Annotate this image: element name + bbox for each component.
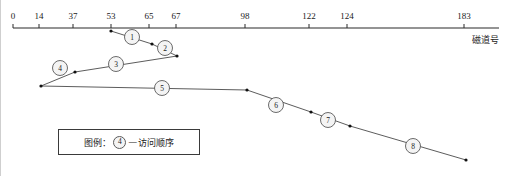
- axis-caption-label: 磁道号: [472, 34, 499, 45]
- access-order-circle: 8: [406, 139, 421, 154]
- access-order-circle: 2: [158, 41, 173, 56]
- axis-tick-label: 98: [241, 11, 251, 21]
- seek-point-dot: [309, 110, 312, 113]
- order-circle-label: 8: [411, 142, 415, 151]
- axis-tick-label: 0: [11, 11, 16, 21]
- axis-tick-label: 37: [69, 11, 79, 21]
- access-order-circle: 7: [321, 113, 336, 128]
- access-order-circle: 6: [269, 98, 284, 113]
- order-circle-label: 1: [130, 33, 134, 42]
- axis-tick-label: 14: [35, 11, 45, 21]
- legend-description: 访问顺序: [138, 136, 175, 149]
- seek-point-dot: [150, 42, 153, 45]
- seek-point-dot: [348, 124, 351, 127]
- seek-point-dot: [73, 70, 76, 73]
- figure-container: 0143753656798122124183 磁道号 12345678 图例： …: [0, 0, 505, 176]
- access-order-circle: 4: [53, 61, 68, 76]
- legend-order-badge: 4: [113, 136, 126, 149]
- order-circle-label: 5: [160, 84, 164, 93]
- legend-dash: —: [128, 137, 137, 147]
- axis-tick-label: 67: [172, 11, 182, 21]
- axis-tick-label: 65: [145, 11, 155, 21]
- legend-box: 图例： 4 — 访问顺序: [58, 129, 200, 155]
- axis-tick-group: 0143753656798122124183: [11, 11, 472, 28]
- seek-point-dot: [109, 29, 112, 32]
- access-order-circle: 1: [125, 30, 140, 45]
- order-circle-label: 4: [58, 64, 62, 73]
- axis-tick-label: 122: [302, 11, 316, 21]
- seek-point-dot: [175, 54, 178, 57]
- seek-point-dot: [39, 84, 42, 87]
- seek-point-dot: [464, 158, 467, 161]
- order-circle-label: 6: [274, 101, 278, 110]
- legend-prefix: 图例：: [84, 136, 112, 149]
- order-circle-label: 3: [114, 60, 118, 69]
- seek-point-dot: [245, 88, 248, 91]
- access-order-circle: 5: [155, 81, 170, 96]
- axis-tick-label: 124: [340, 11, 354, 21]
- order-circle-label: 2: [163, 44, 167, 53]
- axis-tick-label: 53: [107, 11, 117, 21]
- order-circle-label: 7: [326, 116, 330, 125]
- axis-tick-label: 183: [457, 11, 471, 21]
- access-order-circle: 3: [109, 57, 124, 72]
